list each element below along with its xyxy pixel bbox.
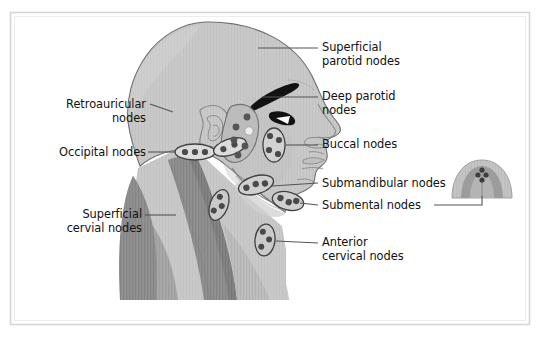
label-superficial-parotid-nodes: Superficial parotid nodes [322, 41, 462, 68]
diagram-canvas [0, 0, 545, 342]
label-retroauricular-nodes: Retroauricular nodes [38, 98, 146, 125]
label-submandibular-nodes: Submandibular nodes [322, 177, 482, 191]
label-submental-nodes: Submental nodes [322, 199, 482, 213]
lymph-node-diagram: Retroauricular nodes Occipital nodes Sup… [0, 0, 545, 342]
buccal-nodes [263, 128, 285, 162]
label-buccal-nodes: Buccal nodes [322, 138, 462, 152]
label-deep-parotid-nodes: Deep parotid nodes [322, 90, 462, 117]
occipital-nodes [175, 144, 215, 160]
label-anterior-cervical-nodes: Anterior cervical nodes [322, 236, 472, 263]
label-superficial-cervical-nodes: Superficial cervial nodes [32, 208, 142, 235]
label-occipital-nodes: Occipital nodes [26, 146, 146, 160]
